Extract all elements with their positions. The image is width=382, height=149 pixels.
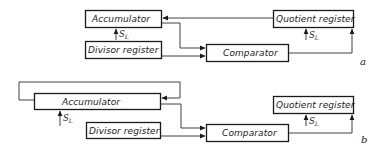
quotient-register-block-b: Quotient register <box>274 97 356 114</box>
shift-left-label-quotient-a: SL <box>309 30 319 41</box>
divisor-register-block-a: Divisor register <box>86 42 162 59</box>
diagram-b: Accumulator Divisor register Comparator … <box>19 82 367 145</box>
comparator-to-quotient-line-b <box>288 115 352 133</box>
accumulator-to-comparator-line-a <box>161 23 205 48</box>
comparator-to-quotient-line-a <box>288 29 352 53</box>
comparator-block-a: Comparator <box>207 45 289 62</box>
quotient-register-label-a: Quotient register <box>276 14 356 24</box>
shift-left-label-accumulator-b: SL <box>63 113 73 124</box>
diagram-tag-b: b <box>361 134 367 145</box>
quotient-register-block-a: Quotient register <box>274 11 356 28</box>
quotient-register-label-b: Quotient register <box>276 100 356 110</box>
divisor-register-block-b: Divisor register <box>87 123 161 139</box>
diagram-tag-a: a <box>360 56 366 67</box>
comparator-block-b: Comparator <box>207 125 289 142</box>
accumulator-to-comparator-line-b <box>160 104 205 128</box>
shift-left-label-quotient-b: SL <box>309 116 319 127</box>
accumulator-block-b: Accumulator <box>35 94 161 110</box>
shift-left-label-accumulator-a: SL <box>119 29 129 40</box>
accumulator-block-a: Accumulator <box>86 11 162 28</box>
divisor-register-label-a: Divisor register <box>88 45 160 55</box>
comparator-label-a: Comparator <box>223 48 279 58</box>
divisor-register-label-b: Divisor register <box>89 126 161 136</box>
comparator-label-b: Comparator <box>222 128 278 138</box>
accumulator-label-b: Accumulator <box>61 97 121 107</box>
accumulator-label-a: Accumulator <box>91 14 151 24</box>
diagram-a: Accumulator Divisor register Comparator … <box>86 11 367 68</box>
division-block-diagrams: Accumulator Divisor register Comparator … <box>0 0 382 149</box>
